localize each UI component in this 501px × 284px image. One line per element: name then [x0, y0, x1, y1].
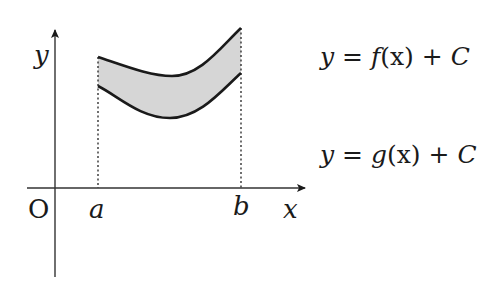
eq-f-plus: +: [422, 42, 443, 71]
eq-g-equals: =: [342, 140, 363, 169]
eq-g-plus: +: [429, 140, 450, 169]
eq-g-func: g: [371, 140, 387, 169]
a-label: a: [89, 196, 105, 222]
equation-f: y = f(x) + C: [320, 44, 470, 69]
x-axis-label: x: [283, 196, 298, 222]
eq-g-const: C: [457, 140, 476, 169]
y-axis-label: y: [34, 42, 49, 68]
shaded-region: [98, 28, 241, 118]
b-label: b: [233, 193, 250, 219]
eq-f-equals: =: [342, 42, 363, 71]
eq-f-arg: (x): [380, 42, 414, 71]
eq-f-const: C: [451, 42, 470, 71]
eq-g-lhs: y: [320, 140, 334, 169]
equation-g: y = g(x) + C: [320, 142, 477, 167]
eq-f-lhs: y: [320, 42, 334, 71]
eq-f-func: f: [371, 42, 380, 71]
eq-g-arg: (x): [387, 140, 421, 169]
origin-label: O: [28, 196, 49, 222]
